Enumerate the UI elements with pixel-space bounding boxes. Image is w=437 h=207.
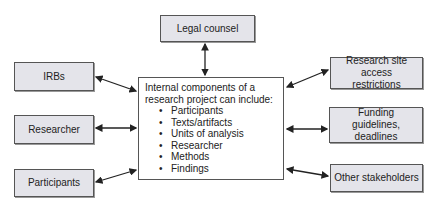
list-item: Texts/artifacts xyxy=(159,117,277,129)
node-research-site: Research site access restrictions xyxy=(330,57,423,89)
node-label: Research site access restrictions xyxy=(337,55,416,91)
list-item: Participants xyxy=(159,105,277,117)
list-item: Findings xyxy=(159,163,277,175)
node-label: IRBs xyxy=(43,71,65,83)
node-irbs: IRBs xyxy=(14,62,94,91)
arrow-irbs xyxy=(96,77,136,91)
node-label: Researcher xyxy=(28,124,80,136)
node-other-stakeholders: Other stakeholders xyxy=(330,164,423,192)
list-item: Units of analysis xyxy=(159,128,277,140)
list-item: Methods xyxy=(159,151,277,163)
node-legal-counsel: Legal counsel xyxy=(160,15,255,42)
list-item: Researcher xyxy=(159,140,277,152)
node-funding: Funding guidelines, deadlines xyxy=(329,107,423,143)
arrow-research-site xyxy=(287,70,328,87)
component-list: Participants Texts/artifacts Units of an… xyxy=(145,105,277,174)
arrow-other-stakeholders xyxy=(287,169,328,176)
node-label: Other stakeholders xyxy=(334,172,419,184)
center-node-internal-components: Internal components of a research projec… xyxy=(138,77,284,180)
arrow-participants xyxy=(96,170,136,182)
center-heading: Internal components of a research projec… xyxy=(145,82,277,105)
node-researcher: Researcher xyxy=(14,115,94,144)
node-label: Legal counsel xyxy=(177,23,239,35)
node-label: Funding guidelines, deadlines xyxy=(334,107,418,143)
node-label: Participants xyxy=(28,177,80,189)
node-participants: Participants xyxy=(14,169,94,197)
